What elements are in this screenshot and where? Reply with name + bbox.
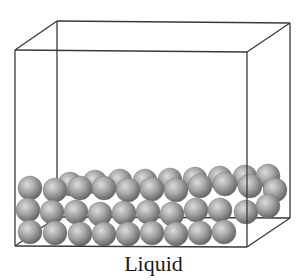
top-right-depth-edge <box>247 23 290 52</box>
particle-sphere <box>212 220 236 244</box>
particle-sphere <box>188 174 212 198</box>
particle-sphere <box>164 178 188 202</box>
particle-sphere <box>184 198 208 222</box>
particle-sphere <box>43 221 67 245</box>
particle-sphere <box>234 200 258 224</box>
particle-sphere <box>92 176 116 200</box>
particle-sphere <box>43 178 67 202</box>
particle-sphere <box>64 200 88 224</box>
particle-sphere <box>256 194 280 218</box>
particle-sphere <box>92 222 116 246</box>
particle-sphere <box>116 222 140 246</box>
particle-sphere <box>40 200 64 224</box>
particle-sphere <box>68 176 92 200</box>
particle-sphere <box>140 221 164 245</box>
particle-sphere <box>16 198 40 222</box>
particle-sphere <box>116 178 140 202</box>
particle-sphere <box>188 221 212 245</box>
particle-sphere <box>208 198 232 222</box>
top-back-edge <box>57 21 290 23</box>
particle-sphere <box>140 177 164 201</box>
state-caption: Liquid <box>0 251 307 277</box>
particle-sphere <box>213 172 237 196</box>
front-bottom-edge <box>15 246 247 247</box>
bottom-right-depth-edge <box>247 218 290 247</box>
particle-sphere <box>18 220 42 244</box>
front-top-edge <box>15 50 247 52</box>
particle-sphere <box>238 174 262 198</box>
particle-sphere <box>164 222 188 246</box>
particle-sphere <box>88 202 112 226</box>
particle-sphere <box>18 176 42 200</box>
particle-sphere <box>136 200 160 224</box>
particle-sphere <box>112 201 136 225</box>
particle-sphere <box>160 202 184 226</box>
liquid-particles-diagram <box>0 0 307 280</box>
top-left-depth-edge <box>15 21 57 50</box>
particle-sphere <box>68 222 92 246</box>
